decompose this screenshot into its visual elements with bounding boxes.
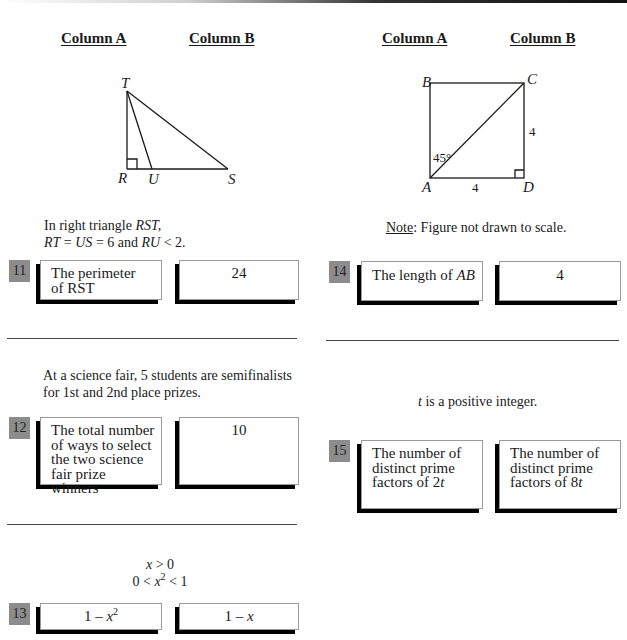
side-label-ad: 4: [472, 181, 479, 194]
q15-column-a-box: The number of distinct prime factors of …: [361, 440, 483, 509]
q12-col-a-line2: of ways to select: [51, 438, 155, 453]
q15-col-b-line1: The number of: [510, 446, 614, 461]
q13-col-b-prefix: 1 –: [224, 608, 247, 624]
geometry-figures: [0, 0, 627, 640]
vertex-label-s: S: [228, 172, 236, 187]
question-number-15: 15: [329, 440, 350, 462]
divider-left-1: [7, 338, 297, 339]
q11-column-a-box: The perimeter of RST: [40, 260, 162, 300]
vertex-label-d: D: [523, 180, 534, 195]
q12-column-a-box: The total number of ways to select the t…: [40, 417, 162, 485]
q13-stem-rest: > 0: [152, 557, 174, 572]
q12-col-a-line1: The total number: [51, 423, 155, 438]
q12-column-b-text: 10: [180, 423, 298, 438]
q11-stem-var: RST,: [135, 218, 161, 233]
q11-stem-text: In right triangle: [44, 218, 135, 233]
q14-column-b-box: 4: [499, 261, 621, 301]
q11-stem-ru: RU: [141, 235, 160, 250]
q15-column-b-box: The number of distinct prime factors of …: [499, 440, 621, 509]
q15-stem-rest: is a positive integer.: [422, 394, 537, 409]
q12-column-b-box: 10: [179, 417, 299, 485]
q14-column-a-box: The length of AB: [361, 261, 483, 301]
q15-column-b-text: The number of distinct prime factors of …: [510, 446, 614, 490]
divider-right-1: [326, 340, 619, 341]
q12-col-a-line4: fair prize winners: [51, 467, 155, 496]
q14-column-a-text: The length of AB: [372, 268, 476, 283]
q15-col-b-line3-var: t: [578, 474, 582, 490]
q13-col-a-prefix: 1 –: [84, 608, 107, 624]
q13-col-b-var: x: [247, 608, 254, 624]
q11-stem-eq2: = 6 and: [92, 235, 141, 250]
vertex-label-c: C: [527, 72, 537, 87]
q14-col-a-var: AB: [457, 267, 475, 283]
question-number-11: 11: [9, 260, 30, 282]
q15-col-a-line1: The number of: [372, 446, 476, 461]
q12-column-a-text: The total number of ways to select the t…: [51, 423, 155, 496]
q12-stem-line2: for 1st and 2nd place prizes.: [43, 384, 292, 401]
side-label-cd: 4: [529, 125, 536, 138]
q11-stem-lt: < 2.: [160, 235, 185, 250]
question-number-14: 14: [329, 261, 350, 283]
q13-column-b-text: 1 – x: [180, 609, 298, 624]
q12-col-a-line3: the two science: [51, 452, 155, 467]
vertex-label-t: T: [121, 76, 129, 91]
q15-col-a-line3-var: t: [440, 474, 444, 490]
q14-note-text: : Figure not drawn to scale.: [413, 220, 566, 235]
vertex-label-r: R: [118, 171, 127, 186]
q11-stem-eq1: =: [60, 235, 75, 250]
angle-label-45: 45°: [433, 151, 451, 164]
divider-left-2: [7, 524, 297, 525]
q13-stem2-prefix: 0 <: [132, 574, 154, 589]
q11-column-a-text: The perimeter of RST: [51, 266, 155, 296]
q12-stem: At a science fair, 5 students are semifi…: [43, 367, 292, 401]
q13-column-a-box: 1 – x2: [40, 603, 162, 630]
q14-note-label: Note: [386, 220, 413, 235]
q15-col-b-line2: distinct prime: [510, 461, 614, 476]
q13-col-a-exp: 2: [113, 606, 118, 617]
vertex-label-a: A: [422, 180, 431, 195]
question-number-13: 13: [9, 603, 30, 625]
vertex-label-b: B: [422, 75, 431, 90]
question-number-12: 12: [9, 417, 30, 439]
q14-col-a-prefix: The length of: [372, 267, 457, 283]
q14-column-b-text: 4: [500, 268, 620, 283]
q12-stem-line1: At a science fair, 5 students are semifi…: [43, 367, 292, 384]
q11-col-a-line1: The perimeter: [51, 266, 155, 281]
q15-stem: t is a positive integer.: [418, 393, 537, 410]
q11-column-b-box: 24: [179, 260, 299, 300]
vertex-label-u: U: [148, 172, 159, 187]
q13-column-a-text: 1 – x2: [41, 609, 161, 624]
q11-col-a-line2: of RST: [51, 281, 155, 296]
q15-col-a-line3-prefix: factors of 2: [372, 474, 440, 490]
q15-col-b-line3-prefix: factors of 8: [510, 474, 578, 490]
triangle-rst-figure: [127, 91, 228, 169]
q11-stem: In right triangle RST, RT = US = 6 and R…: [44, 217, 186, 251]
q14-note: Note: Figure not drawn to scale.: [386, 219, 566, 236]
q15-col-a-line2: distinct prime: [372, 461, 476, 476]
q15-column-a-text: The number of distinct prime factors of …: [372, 446, 476, 490]
q11-stem-us: US: [75, 235, 92, 250]
q13-stem2-suffix: < 1: [166, 574, 188, 589]
q11-column-b-text: 24: [180, 266, 298, 281]
q13-column-b-box: 1 – x: [179, 603, 299, 630]
q13-stem: x > 0 0 < x2 < 1: [0, 556, 320, 590]
q11-stem-rt: RT: [44, 235, 60, 250]
